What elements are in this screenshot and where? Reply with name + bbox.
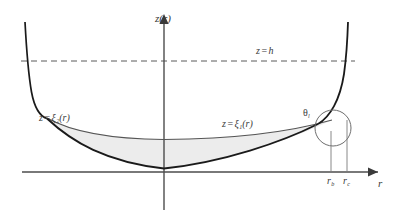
contact-angle-label: θl	[303, 108, 310, 119]
height-line-label: z=h	[256, 46, 274, 56]
height-label-lhs: z	[256, 45, 260, 56]
contact-angle-subscript: l	[308, 112, 310, 119]
tick-label-rb: rb	[327, 176, 334, 187]
outer-profile-curve-xi2-left-wall	[25, 22, 47, 119]
inner-profile-label-arg: (r)	[242, 118, 253, 129]
outer-profile-label-equals: =	[44, 112, 50, 123]
contact-angle-highlight-circle	[315, 110, 351, 146]
shaded-region-between-profiles	[47, 118, 332, 168]
inner-profile-label-lhs: z	[222, 118, 226, 129]
tick-label-rc: rc	[343, 176, 350, 187]
outer-profile-label-lhs: z	[39, 112, 43, 123]
r-axis-arrowhead	[368, 167, 378, 176]
tick-label-rb-subscript: b	[331, 180, 334, 187]
z-axis-label-text: z(r)	[155, 12, 171, 24]
tick-label-rc-subscript: c	[347, 180, 350, 187]
inner-profile-label: z=ξ1(r)	[222, 119, 253, 130]
height-label-rhs: h	[269, 45, 274, 56]
outer-profile-curve-xi2-right-wall	[318, 22, 348, 124]
meniscus-diagram: z(r) z=h z=ξ2(r) z=ξ1(r) θl rb rc r	[0, 0, 399, 219]
height-label-equals: =	[261, 45, 267, 56]
z-axis-label: z(r)	[155, 13, 171, 24]
r-axis-label-text: r	[378, 177, 382, 189]
inner-profile-label-equals: =	[227, 118, 233, 129]
r-axis-label: r	[378, 178, 382, 189]
diagram-canvas	[0, 0, 399, 219]
outer-profile-label-arg: (r)	[59, 112, 70, 123]
outer-profile-label: z=ξ2(r)	[39, 113, 70, 124]
